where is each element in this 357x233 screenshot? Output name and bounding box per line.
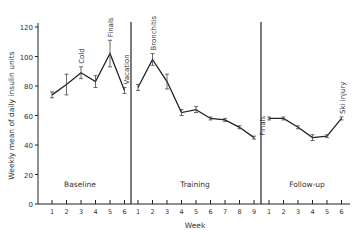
- x-tick-label: 2: [281, 208, 285, 216]
- y-tick-label: 40: [24, 142, 33, 150]
- phase-label: Baseline: [64, 180, 96, 189]
- x-tick-label: 2: [150, 208, 154, 216]
- annotation-label: Finals: [259, 115, 267, 135]
- annotation-label: Finals: [107, 17, 115, 37]
- x-tick-label: 5: [194, 208, 198, 216]
- x-tick-label: 3: [79, 208, 83, 216]
- insulin-chart: 020406080100120123456123456789123456 Wee…: [0, 0, 357, 233]
- series-line-training: [138, 59, 254, 137]
- x-tick-label: 6: [208, 208, 212, 216]
- x-tick-label: 1: [50, 208, 54, 216]
- y-tick-label: 120: [20, 24, 33, 32]
- y-tick-label: 0: [29, 201, 33, 209]
- x-tick-label: 8: [237, 208, 241, 216]
- x-tick-label: 5: [325, 208, 329, 216]
- x-tick-label: 1: [267, 208, 271, 216]
- x-tick-label: 7: [223, 208, 227, 216]
- x-tick-label: 3: [165, 208, 169, 216]
- y-tick-label: 100: [20, 54, 33, 62]
- x-tick-label: 6: [339, 208, 343, 216]
- annotation-label: Ski injury: [339, 82, 347, 114]
- x-tick-label: 6: [122, 208, 126, 216]
- x-tick-label: 9: [252, 208, 256, 216]
- y-tick-label: 60: [24, 113, 33, 121]
- x-tick-label: 4: [93, 208, 97, 216]
- x-tick-label: 4: [310, 208, 314, 216]
- annotation-label: Vacation: [123, 54, 131, 84]
- x-tick-label: 1: [136, 208, 140, 216]
- x-tick-label: 3: [296, 208, 300, 216]
- y-tick-label: 80: [24, 83, 33, 91]
- labels: Weekly mean of daily insulin unitsWeekCo…: [7, 15, 347, 230]
- y-tick-label: 20: [24, 172, 33, 180]
- data-series: [50, 40, 344, 140]
- x-tick-label: 4: [179, 208, 183, 216]
- phase-label: Follow-up: [289, 180, 325, 189]
- series-line-baseline: [52, 54, 125, 95]
- x-tick-label: 2: [64, 208, 68, 216]
- y-axis-label: Weekly mean of daily insulin units: [7, 51, 16, 179]
- phase-label: Training: [179, 180, 210, 189]
- series-line-follow-up: [269, 118, 342, 137]
- x-axis-label: Week: [185, 221, 206, 230]
- chart-canvas: 020406080100120123456123456789123456 Wee…: [0, 0, 357, 233]
- x-tick-label: 5: [108, 208, 112, 216]
- annotation-label: Cold: [78, 48, 86, 64]
- annotation-label: Bronchitis: [150, 15, 158, 50]
